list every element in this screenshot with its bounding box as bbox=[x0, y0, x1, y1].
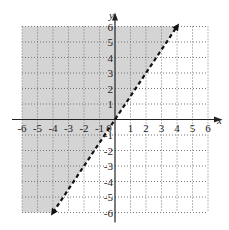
y-tick-label: -1 bbox=[104, 129, 113, 141]
x-axis-label: x bbox=[216, 114, 222, 126]
y-tick-label: -5 bbox=[104, 191, 114, 203]
y-tick-label: 6 bbox=[108, 21, 114, 33]
x-tick-label: 5 bbox=[190, 122, 196, 134]
y-tick-label: -6 bbox=[104, 207, 114, 219]
y-tick-label: 3 bbox=[108, 67, 114, 79]
x-tick-label: -4 bbox=[48, 122, 58, 134]
y-tick-label: 4 bbox=[108, 52, 114, 64]
y-tick-label: 2 bbox=[108, 83, 114, 95]
x-tick-label: -5 bbox=[33, 122, 43, 134]
x-tick-label: -2 bbox=[79, 122, 88, 134]
x-tick-label: -6 bbox=[17, 122, 27, 134]
x-tick-label: 2 bbox=[143, 122, 149, 134]
x-tick-label: 4 bbox=[174, 122, 180, 134]
x-tick-label: 1 bbox=[128, 122, 134, 134]
y-tick-label: 5 bbox=[108, 36, 114, 48]
y-tick-label: 1 bbox=[108, 98, 114, 110]
y-axis-label: y bbox=[108, 9, 114, 21]
y-tick-label: -4 bbox=[104, 176, 114, 188]
x-tick-label: 6 bbox=[205, 122, 211, 134]
y-tick-label: -2 bbox=[104, 145, 113, 157]
inequality-graph: -6-5-4-3-2-10123456-6-5-4-3-2-1123456 x … bbox=[0, 0, 229, 230]
x-tick-label: -3 bbox=[64, 122, 74, 134]
x-tick-label: 3 bbox=[159, 122, 165, 134]
x-tick-label: -1 bbox=[95, 122, 104, 134]
y-tick-label: -3 bbox=[104, 160, 114, 172]
